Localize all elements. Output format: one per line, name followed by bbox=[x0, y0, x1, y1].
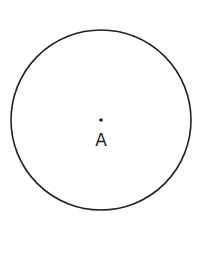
center-point bbox=[99, 118, 103, 122]
point-label-a: A bbox=[95, 130, 107, 150]
geometry-figure: A bbox=[0, 0, 206, 257]
